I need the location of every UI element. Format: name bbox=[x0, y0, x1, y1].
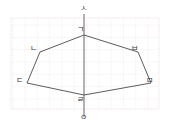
vertex-label-bieup: ㅂ bbox=[131, 45, 138, 53]
vertex-label-mieum: ㅁ bbox=[146, 77, 153, 85]
vertex-label-nieun: ㄴ bbox=[30, 45, 37, 53]
axis-top-label: ㅅ bbox=[80, 5, 87, 13]
vertex-label-rieul: ㄹ bbox=[77, 96, 84, 104]
vertex-label-giyeok: ㄱ bbox=[77, 26, 84, 34]
axis-bottom-label: ㅇ bbox=[80, 114, 87, 122]
shape-layer bbox=[0, 0, 169, 131]
geometry-figure: ㅅ ㄱ ㄴ ㄷ ㄹ ㅁ ㅂ ㅇ bbox=[0, 0, 169, 131]
vertex-label-digeut: ㄷ bbox=[16, 77, 23, 85]
